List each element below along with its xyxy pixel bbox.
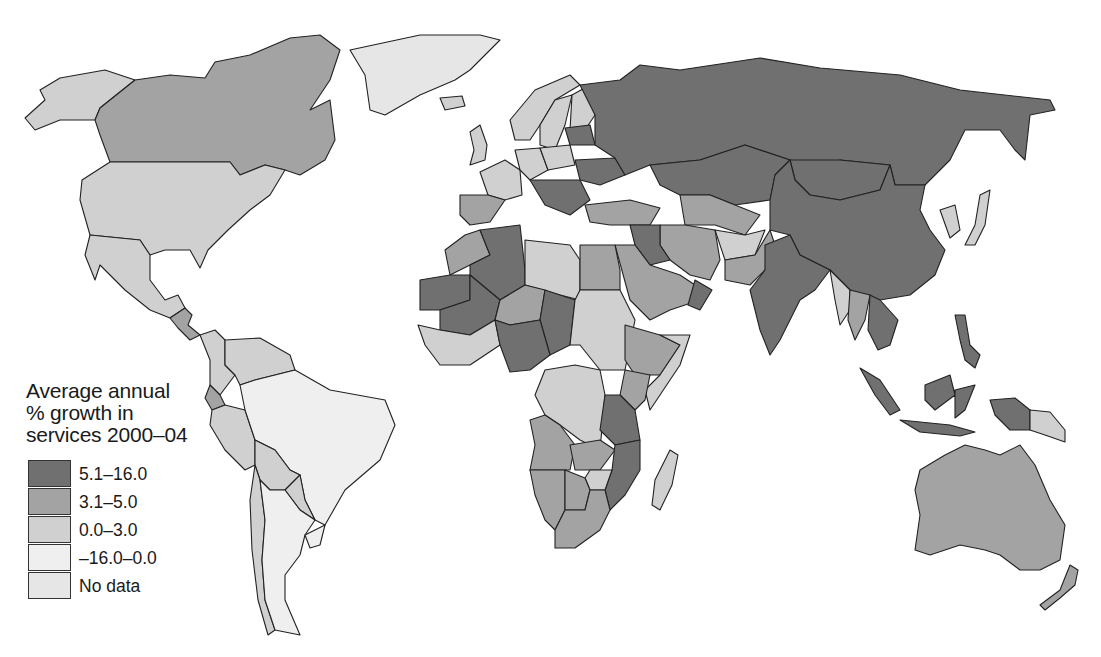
region-thailand: [848, 290, 870, 340]
region-indonesia: [860, 368, 1030, 436]
map-legend: Average annual % growth in services 2000…: [28, 380, 246, 600]
legend-swatch: [28, 488, 71, 515]
region-france: [480, 160, 522, 200]
region-korea: [940, 205, 960, 238]
region-spain: [460, 195, 505, 225]
region-egypt: [580, 245, 620, 290]
legend-title-line-2: % growth in: [26, 402, 246, 424]
legend-label: 0.0–3.0: [79, 520, 137, 541]
region-japan: [965, 190, 990, 245]
legend-item-3.1-5.0: 3.1–5.0: [28, 488, 246, 516]
legend-title: Average annual % growth in services 2000…: [26, 380, 246, 446]
legend-swatch: [28, 572, 71, 599]
region-baltics: [565, 125, 595, 145]
legend-item-0.0-3.0: 0.0–3.0: [28, 516, 246, 544]
region-vietnam: [868, 295, 898, 350]
legend-label: 5.1–16.0: [79, 464, 147, 485]
legend-item-no-data: No data: [28, 572, 246, 600]
legend-label: 3.1–5.0: [79, 492, 137, 513]
legend-swatch: [28, 544, 71, 571]
legend-label: No data: [79, 576, 140, 597]
region-philippines: [955, 315, 980, 368]
region-turkey: [585, 200, 660, 225]
legend-title-line-3: services 2000–04: [26, 424, 246, 446]
legend-label: –16.0–0.0: [79, 548, 157, 569]
region-papua-new-guinea: [1030, 410, 1065, 442]
region-iceland: [440, 96, 465, 110]
region-madagascar: [652, 450, 678, 510]
region-uk: [470, 125, 487, 165]
region-zambia: [570, 440, 615, 470]
legend-swatch: [28, 516, 71, 543]
region-new-zealand: [1040, 565, 1078, 610]
region-australia: [915, 445, 1065, 570]
legend-item-5.1-16.0: 5.1–16.0: [28, 460, 246, 488]
region-nigeria: [495, 320, 550, 372]
region-balkans: [530, 180, 590, 215]
legend-item-neg16.0-0.0: –16.0–0.0: [28, 544, 246, 572]
region-canada: [95, 35, 340, 175]
legend-items: 5.1–16.0 3.1–5.0 0.0–3.0 –16.0–0.0 No da…: [28, 460, 246, 600]
region-greenland: [350, 35, 500, 115]
legend-title-line-1: Average annual: [26, 380, 246, 402]
legend-swatch: [28, 460, 71, 487]
